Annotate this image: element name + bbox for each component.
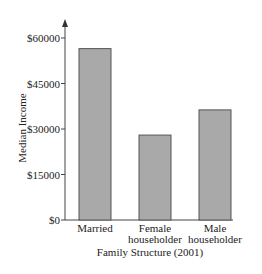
bar-married [79, 49, 111, 220]
bar-female-householder [139, 135, 171, 220]
y-axis-label: Median Income [16, 68, 28, 188]
y-tick-label: $30000 [4, 123, 60, 135]
y-tick-label: $0 [4, 214, 60, 226]
y-tick-label: $45000 [4, 78, 60, 90]
y-tick-label: $60000 [4, 32, 60, 44]
x-axis-label: Family Structure (2001) [65, 246, 235, 258]
y-axis-arrow-icon [62, 19, 68, 27]
x-category-label: Malehouseholder [180, 223, 250, 245]
bar-chart: $0$15000$30000$45000$60000 MarriedFemale… [0, 0, 262, 274]
y-tick-label: $15000 [4, 169, 60, 181]
bar-male-householder [199, 110, 231, 220]
